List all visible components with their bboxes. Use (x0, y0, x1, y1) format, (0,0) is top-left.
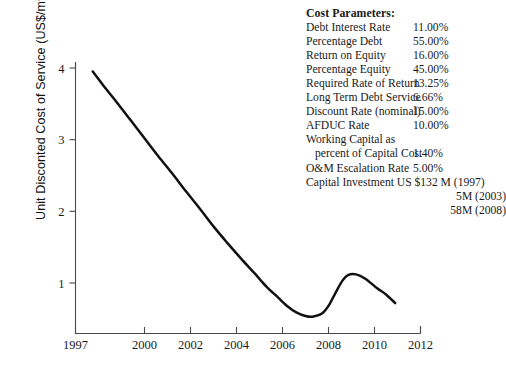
cost-parameter-row: Long Term Debt Service6.66% (306, 91, 506, 105)
cost-parameters-panel: Cost Parameters: Debt Interest Rate11.00… (306, 6, 506, 218)
cost-parameter-label: Percentage Debt (306, 35, 382, 49)
y-tick-label: 1 (58, 277, 64, 291)
cost-parameter-value: 1.40% (413, 147, 443, 161)
cost-parameter-value: 16.00% (413, 49, 449, 63)
cost-parameter-row: Working Capital as (306, 133, 506, 147)
cost-parameter-label: Working Capital as (306, 133, 395, 147)
cost-parameter-row: Percentage Equity45.00% (306, 63, 506, 77)
chart-figure: Unit Disconted Cost of Service (US$/m3) … (0, 0, 506, 375)
x-tick-label: 2004 (224, 338, 250, 352)
cost-parameters-title: Cost Parameters: (306, 6, 506, 20)
x-axis-ticks: 19972000200220042006200820102012 (63, 327, 433, 352)
cost-parameter-row: Return on Equity16.00% (306, 49, 506, 63)
capital-investment-block: Capital Investment US $132 M (1997)5M (2… (306, 176, 506, 218)
cost-parameter-label: O&M Escalation Rate (306, 162, 409, 176)
cost-parameter-row: Percentage Debt55.00% (306, 35, 506, 49)
x-tick-label: 2002 (178, 338, 203, 352)
cost-parameter-value: 15.00% (413, 105, 449, 119)
cost-parameter-row: Discount Rate (nominal)15.00% (306, 105, 506, 119)
cost-parameter-row: Debt Interest Rate11.00% (306, 21, 506, 35)
x-tick-label: 2006 (270, 338, 295, 352)
cost-parameter-label: Percentage Equity (306, 63, 391, 77)
cost-parameter-label: Debt Interest Rate (306, 21, 390, 35)
cost-parameter-label: Discount Rate (nominal) (306, 105, 421, 119)
cost-parameter-value: 11.00% (413, 21, 448, 35)
x-tick-label: 2008 (316, 338, 341, 352)
x-tick-label: 2010 (362, 338, 387, 352)
cost-parameter-value: 45.00% (413, 63, 449, 77)
cost-parameter-label: AFDUC Rate (306, 119, 369, 133)
cost-parameter-row: Required Rate of Return13.25% (306, 77, 506, 91)
y-tick-label: 4 (58, 62, 65, 76)
cost-parameter-label: Return on Equity (306, 49, 386, 63)
cost-parameter-row: percent of Capital Cost1.40% (306, 147, 506, 161)
cost-parameter-value: 6.66% (413, 91, 443, 105)
x-tick-label: 2000 (132, 338, 157, 352)
cost-parameter-value: 10.00% (413, 119, 449, 133)
cost-parameter-label: percent of Capital Cost (306, 147, 422, 161)
x-tick-label: 2012 (408, 338, 433, 352)
cost-parameter-row: AFDUC Rate10.00% (306, 119, 506, 133)
capital-investment-line: Capital Investment US $132 M (1997) (306, 176, 506, 190)
cost-parameter-value: 13.25% (413, 77, 449, 91)
cost-parameter-value: 5.00% (413, 162, 443, 176)
cost-parameter-value: 55.00% (413, 35, 449, 49)
y-axis-ticks: 1234 (58, 62, 75, 291)
x-tick-label: 1997 (63, 338, 88, 352)
cost-parameter-row: O&M Escalation Rate5.00% (306, 162, 506, 176)
y-tick-label: 2 (58, 205, 64, 219)
cost-parameter-label: Long Term Debt Service (306, 91, 421, 105)
capital-investment-line: 58M (2008) (306, 204, 506, 218)
y-tick-label: 3 (58, 133, 64, 147)
cost-parameters-rows: Debt Interest Rate11.00%Percentage Debt5… (306, 21, 506, 176)
cost-parameter-label: Required Rate of Return (306, 77, 420, 91)
capital-investment-line: 5M (2003) (306, 190, 506, 204)
